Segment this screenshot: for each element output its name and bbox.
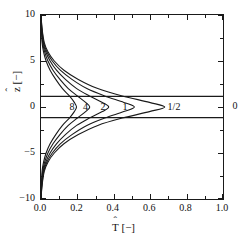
curve-label-2: 2	[97, 102, 109, 112]
figure-chart-temperature-profiles: ˆz [−] ˆT [−] 10 5 0 −5 −10 0.0 0.2 0.4 …	[0, 0, 247, 247]
x-tick-label-1-0: 1.0	[207, 203, 237, 213]
y-tick-label-neg5: −5	[3, 147, 35, 157]
x-axis-units: [−]	[119, 221, 135, 233]
y-hat-accent: ˆ	[4, 87, 14, 92]
plot-area: 8 4 2 1 1/2	[40, 14, 224, 200]
y-tick-label-neg10: −10	[3, 193, 35, 203]
x-axis-title: ˆT [−]	[0, 222, 247, 233]
y-axis-units: [−]	[10, 71, 22, 87]
curve-label-8: 8	[66, 102, 78, 112]
y-tick-label-5: 5	[3, 55, 35, 65]
x-axis-symbol: ˆT	[112, 222, 119, 233]
y-tick-label-10: 10	[3, 9, 35, 19]
x-tick-label-0-4: 0.4	[98, 203, 128, 213]
curve-label-1: 1	[119, 102, 131, 112]
x-tick-label-0-8: 0.8	[171, 203, 201, 213]
curve-label-half: 1/2	[163, 102, 185, 112]
x-hat-accent: ˆ	[112, 216, 119, 226]
x-tick-label-0-0: 0.0	[25, 203, 55, 213]
x-tick-label-0-2: 0.2	[61, 203, 91, 213]
curve-label-4: 4	[80, 102, 92, 112]
y-tick-label-0: 0	[3, 101, 35, 111]
x-tick-label-0-6: 0.6	[134, 203, 164, 213]
curve-label-0: 0	[228, 101, 242, 111]
y-axis-symbol: ˆz	[11, 87, 22, 92]
